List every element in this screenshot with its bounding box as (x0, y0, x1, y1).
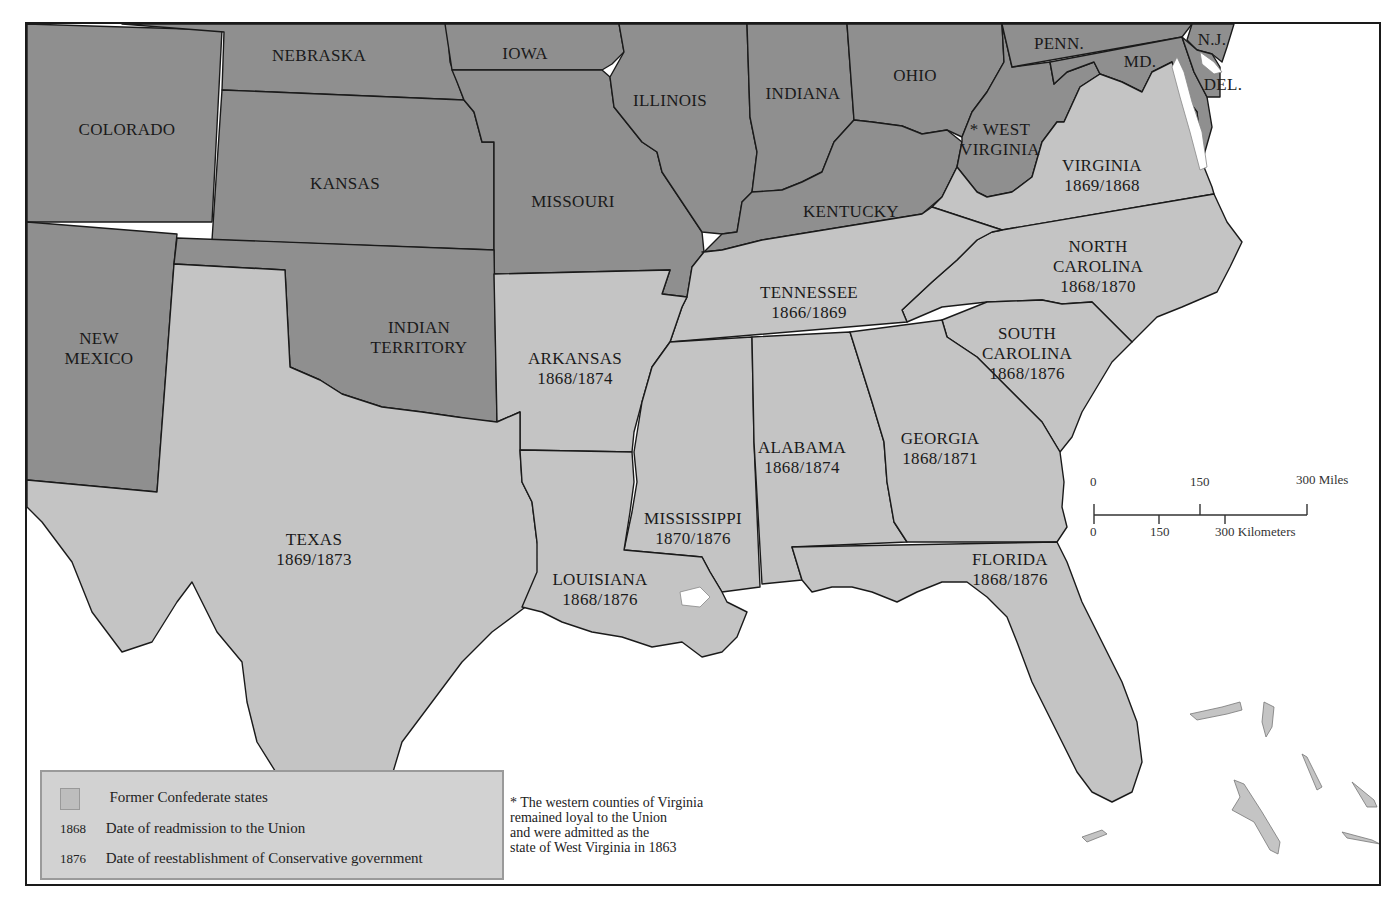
label-penn: PENN. (1034, 34, 1084, 54)
label-iowa: IOWA (502, 44, 548, 64)
footnote: * The western counties of Virginia remai… (510, 795, 703, 855)
legend: Former Confederate states 1868 Date of r… (40, 770, 504, 880)
island-keys (1082, 830, 1107, 842)
footnote-line: remained loyal to the Union (510, 810, 703, 825)
label-alabama: ALABAMA1868/1874 (758, 438, 846, 478)
label-tennessee: TENNESSEE1866/1869 (760, 283, 858, 323)
legend-key: 1876 (60, 851, 102, 867)
label-del: DEL. (1204, 75, 1243, 95)
island-abaco (1262, 702, 1274, 737)
island-grand-bahama (1190, 702, 1242, 720)
scale-km-300: 300 Kilometers (1215, 524, 1296, 540)
legend-label: Date of reestablishment of Conservative … (106, 850, 423, 866)
label-md: MD. (1124, 52, 1157, 72)
map-canvas (27, 24, 1381, 886)
legend-item-confederate: Former Confederate states (60, 788, 268, 810)
legend-key: 1868 (60, 821, 102, 837)
map-frame: NEBRASKA IOWA ILLINOIS INDIANA OHIO PENN… (25, 22, 1381, 886)
label-illinois: ILLINOIS (633, 91, 707, 111)
legend-item-readmission: 1868 Date of readmission to the Union (60, 820, 305, 837)
label-colorado: COLORADO (79, 120, 176, 140)
scale-miles-0: 0 (1090, 474, 1097, 490)
label-virginia: VIRGINIA1869/1868 (1062, 156, 1142, 196)
label-mississippi: MISSISSIPPI1870/1876 (644, 509, 742, 549)
label-louisiana: LOUISIANA1868/1876 (552, 570, 647, 610)
state-kansas (212, 90, 494, 250)
legend-label: Date of readmission to the Union (106, 820, 306, 836)
label-arkansas: ARKANSAS1868/1874 (528, 349, 622, 389)
island-exuma (1352, 782, 1377, 807)
state-florida (792, 542, 1142, 802)
legend-item-conservative: 1876 Date of reestablishment of Conserva… (60, 850, 423, 867)
scale-km-150: 150 (1150, 524, 1170, 540)
legend-label: Former Confederate states (110, 789, 268, 805)
footnote-line: * The western counties of Virginia (510, 795, 703, 810)
label-kansas: KANSAS (310, 174, 380, 194)
legend-swatch-confederate (60, 788, 80, 810)
label-florida: FLORIDA1868/1876 (972, 550, 1048, 590)
scale-miles-150: 150 (1190, 474, 1210, 490)
label-new-mexico: NEWMEXICO (65, 329, 134, 369)
label-georgia: GEORGIA1868/1871 (901, 429, 980, 469)
island-eleuthera (1302, 754, 1322, 790)
island-andros (1232, 780, 1280, 854)
label-kentucky: KENTUCKY (803, 202, 899, 222)
footnote-line: state of West Virginia in 1863 (510, 840, 703, 855)
scale-bar: 0 150 300 Miles 0 150 300 Kilometers (1060, 466, 1360, 546)
label-north-carolina: NORTHCAROLINA1868/1870 (1053, 237, 1143, 297)
label-ohio: OHIO (893, 66, 937, 86)
label-texas: TEXAS1869/1873 (276, 530, 351, 570)
island-cuba-tip (1342, 832, 1380, 844)
label-west-virginia: * WESTVIRGINIA (960, 120, 1040, 160)
label-indiana: INDIANA (766, 84, 841, 104)
footnote-line: and were admitted as the (510, 825, 703, 840)
label-nj: N.J. (1198, 30, 1227, 50)
label-south-carolina: SOUTHCAROLINA1868/1876 (982, 324, 1072, 384)
label-indian-territory: INDIANTERRITORY (371, 318, 468, 358)
scale-miles-300: 300 Miles (1296, 472, 1348, 488)
label-nebraska: NEBRASKA (272, 46, 366, 66)
scale-km-0: 0 (1090, 524, 1097, 540)
label-missouri: MISSOURI (531, 192, 615, 212)
